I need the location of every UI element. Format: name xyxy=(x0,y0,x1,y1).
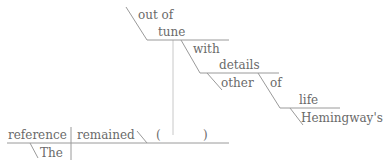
subject-modifier-the: The xyxy=(40,146,63,160)
object-details: details xyxy=(219,58,260,72)
modifier-out-of: out of xyxy=(138,8,175,22)
modifier-hemingways: Hemingway's xyxy=(301,111,383,125)
open-paren: ( xyxy=(156,128,161,142)
the-modifier-slant xyxy=(30,143,38,158)
predicate-adjective-tune: tune xyxy=(158,25,185,39)
other-slant xyxy=(207,73,222,90)
complement-slant xyxy=(137,131,147,143)
verb-word: remained xyxy=(77,128,135,142)
subject-word: reference xyxy=(8,128,67,142)
object-life: life xyxy=(299,93,318,107)
preposition-of: of xyxy=(270,76,283,90)
modifier-other: other xyxy=(221,76,254,90)
sentence-diagram: reference remained ( ) The tune out of w… xyxy=(0,0,388,167)
preposition-with: with xyxy=(193,42,220,56)
close-paren: ) xyxy=(203,128,208,142)
